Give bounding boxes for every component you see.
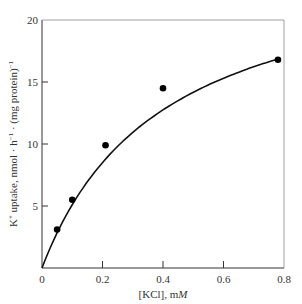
data-points [54,56,281,232]
data-point [102,142,109,149]
x-axis-label: [KCl], mM [139,288,189,300]
y-tick-label: 15 [27,76,39,88]
y-axis-ticks: 5101520 [27,14,48,212]
x-axis-ticks: 00.20.40.60.8 [39,261,291,285]
data-point [54,226,61,233]
x-tick-label: 0.6 [217,273,231,285]
data-point [69,197,76,204]
data-point [275,56,282,63]
x-tick-label: 0.4 [156,273,170,285]
y-tick-label: 20 [27,14,39,26]
y-tick-label: 10 [27,138,39,150]
y-axis-label: K+ uptake, nmol · h−1 · (mg protein)−1 [7,60,20,227]
plot-frame [42,20,284,268]
fit-curve [42,59,278,268]
data-point [160,85,167,92]
x-tick-label: 0.2 [96,273,110,285]
y-tick-label: 5 [33,200,39,212]
x-tick-label: 0.8 [277,273,291,285]
chart: 5101520 00.20.40.60.8 [KCl], mM K+ uptak… [0,0,302,304]
x-tick-label: 0 [39,273,45,285]
